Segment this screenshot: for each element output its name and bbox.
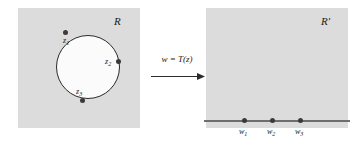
point-marker-w1 <box>242 118 247 123</box>
point-marker-z2 <box>116 59 121 64</box>
point-label-z1-sub: 1 <box>66 40 69 46</box>
point-marker-w2 <box>270 118 275 123</box>
left-region-label: R <box>114 16 121 27</box>
point-label-z3: z3 <box>76 88 82 96</box>
point-label-w1: w1 <box>239 128 247 136</box>
right-arrow-icon <box>151 72 205 81</box>
point-label-w1-sub: 1 <box>244 131 247 137</box>
point-label-z3-sub: 3 <box>79 91 82 97</box>
point-label-z2-sub: 2 <box>108 61 111 67</box>
point-label-w2: w2 <box>267 128 275 136</box>
point-label-z2: z2 <box>105 58 111 66</box>
transform-annotation: w = T(z) <box>148 55 206 83</box>
right-region-label: R′ <box>321 16 330 27</box>
point-label-w3-sub: 3 <box>300 131 303 137</box>
point-marker-w3 <box>298 118 303 123</box>
conformal-map-figure: R z1 z2 z3 w = T(z) R′ w1 w2 w3 <box>0 0 356 151</box>
point-label-w3: w3 <box>295 128 303 136</box>
point-marker-z3 <box>80 98 85 103</box>
point-label-w2-sub: 2 <box>272 131 275 137</box>
point-label-z1: z1 <box>63 37 69 45</box>
point-marker-z1 <box>63 30 68 35</box>
transform-formula: w = T(z) <box>148 55 206 64</box>
real-axis-line <box>204 120 350 122</box>
